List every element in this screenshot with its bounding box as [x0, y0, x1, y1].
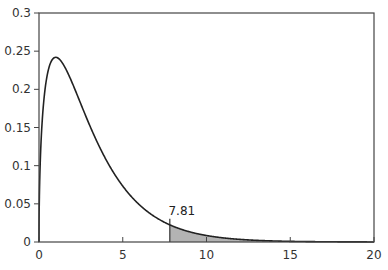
chi-square-chart: 05101520 00.050.10.150.20.250.3 7.81	[0, 0, 388, 270]
x-tick-label: 10	[199, 248, 214, 262]
x-tick-label: 0	[35, 248, 43, 262]
annotations: 7.81	[168, 204, 195, 218]
density-curve	[39, 57, 374, 242]
critical-region-shading	[170, 219, 374, 242]
critical-value-label: 7.81	[168, 204, 195, 218]
y-tick-label: 0.3	[12, 6, 31, 20]
y-axis-ticks: 00.050.10.150.20.250.3	[4, 6, 39, 249]
y-tick-label: 0.05	[4, 197, 31, 211]
y-tick-label: 0.2	[12, 82, 31, 96]
x-tick-label: 5	[119, 248, 127, 262]
y-tick-label: 0.1	[12, 159, 31, 173]
plot-frame	[39, 13, 374, 242]
x-tick-label: 20	[366, 248, 381, 262]
y-tick-label: 0	[23, 235, 31, 249]
y-tick-label: 0.15	[4, 121, 31, 135]
y-tick-label: 0.25	[4, 44, 31, 58]
x-tick-label: 15	[283, 248, 298, 262]
